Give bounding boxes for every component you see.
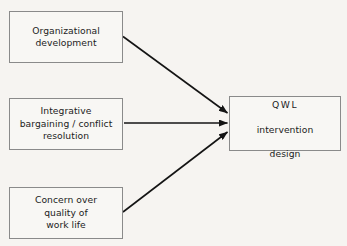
node-label-concern-quality-work-life: Concern over quality of work life	[35, 194, 97, 231]
diagram-canvas: Organizational development Integrative b…	[0, 0, 347, 246]
node-label-qwl-line2: intervention	[257, 124, 314, 135]
node-label-integrative-bargaining: Integrative bargaining / conflict resolu…	[20, 105, 113, 142]
node-organizational-development[interactable]: Organizational development	[9, 11, 123, 63]
node-integrative-bargaining[interactable]: Integrative bargaining / conflict resolu…	[9, 98, 123, 150]
node-label-qwl-intervention-design: QWL intervention design	[257, 86, 314, 160]
edge-concern-to-qwl	[123, 132, 228, 212]
node-label-qwl-line3: design	[270, 148, 301, 159]
node-label-qwl-line1: QWL	[272, 99, 298, 110]
node-label-organizational-development: Organizational development	[32, 25, 100, 50]
node-qwl-intervention-design[interactable]: QWL intervention design	[229, 96, 341, 151]
node-concern-quality-work-life[interactable]: Concern over quality of work life	[9, 187, 123, 239]
edge-od-to-qwl	[123, 37, 228, 114]
